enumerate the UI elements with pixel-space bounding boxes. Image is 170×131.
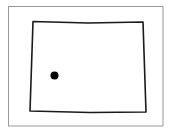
state-outline xyxy=(30,22,146,113)
locator-map xyxy=(0,0,170,131)
location-marker-dot xyxy=(51,72,59,80)
map-svg xyxy=(0,0,170,131)
